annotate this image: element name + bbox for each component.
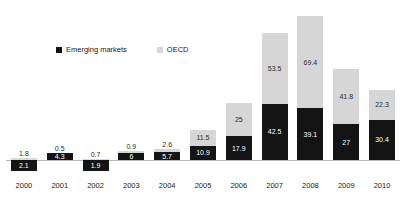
bar-value-label-oecd: 0.7 xyxy=(91,151,101,158)
bar-stack: 0.96 xyxy=(118,151,144,160)
bar-segment-emerging-markets-below-axis: 2.1 xyxy=(11,160,37,171)
x-axis-tick-2004: 2004 xyxy=(151,181,183,190)
bar-segment-oecd: 22.3 xyxy=(369,90,395,120)
bar-group: 2517.9 xyxy=(223,8,255,176)
bar-group: 0.71.9 xyxy=(80,8,112,176)
x-axis-tick-2005: 2005 xyxy=(187,181,219,190)
bar-segment-emerging-markets: 10.9 xyxy=(190,146,216,160)
bar-value-label-oecd: 41.8 xyxy=(339,93,353,100)
bar-stack: 2517.9 xyxy=(226,103,252,160)
bar-value-label-oecd: 2.6 xyxy=(162,141,172,148)
bar-value-label-emerging-markets: 2.1 xyxy=(19,162,29,169)
bar-segment-emerging-markets-below-axis: 1.9 xyxy=(83,160,109,171)
bar-stack: 22.330.4 xyxy=(369,90,395,160)
x-axis-tick-2001: 2001 xyxy=(44,181,76,190)
bar-stack: 41.827 xyxy=(333,69,359,160)
x-axis-tick-2009: 2009 xyxy=(330,181,362,190)
bar-value-label-oecd: 22.3 xyxy=(375,101,389,108)
x-axis-tick-2000: 2000 xyxy=(8,181,40,190)
bar-group: 53.542.5 xyxy=(259,8,291,176)
bar-group: 2.65.7 xyxy=(151,8,183,176)
bar-segment-emerging-markets: 5.7 xyxy=(154,152,180,160)
bar-segment-oecd: 53.5 xyxy=(262,33,288,104)
plot-area: 1.82.10.54.30.71.90.962.65.711.510.92517… xyxy=(6,8,400,176)
stacked-bar-chart: Emerging markets OECD 1.82.10.54.30.71.9… xyxy=(0,0,406,206)
bar-group: 0.96 xyxy=(115,8,147,176)
bar-segment-oecd: 25 xyxy=(226,103,252,136)
bar-segment-oecd: 11.5 xyxy=(190,130,216,145)
x-axis-tick-2003: 2003 xyxy=(115,181,147,190)
bar-value-label-emerging-markets: 4.3 xyxy=(55,153,65,160)
bar-segment-emerging-markets: 27 xyxy=(333,124,359,160)
bar-value-label-oecd: 0.9 xyxy=(126,143,136,150)
bar-segment-emerging-markets: 17.9 xyxy=(226,136,252,160)
bar-stack: 11.510.9 xyxy=(190,130,216,160)
x-axis-tick-2002: 2002 xyxy=(80,181,112,190)
x-axis-tick-labels: 2000200120022003200420052006200720082009… xyxy=(6,181,400,190)
bar-value-label-oecd: 69.4 xyxy=(304,59,318,66)
bar-value-label-oecd: 53.5 xyxy=(268,65,282,72)
bar-segment-emerging-markets: 39.1 xyxy=(297,108,323,160)
bar-value-label-emerging-markets: 17.9 xyxy=(232,145,246,152)
bar-segment-emerging-markets: 42.5 xyxy=(262,104,288,160)
bar-group: 69.439.1 xyxy=(294,8,326,176)
bar-stack: 0.54.3 xyxy=(47,154,73,160)
bar-value-label-emerging-markets: 27 xyxy=(342,139,350,146)
bar-value-label-emerging-markets: 42.5 xyxy=(268,128,282,135)
x-axis-tick-2006: 2006 xyxy=(223,181,255,190)
x-axis-tick-2008: 2008 xyxy=(294,181,326,190)
bar-group: 22.330.4 xyxy=(366,8,398,176)
bar-value-label-oecd: 11.5 xyxy=(196,134,209,141)
bar-group: 0.54.3 xyxy=(44,8,76,176)
bar-value-label-emerging-markets: 30.4 xyxy=(375,136,389,143)
bar-value-label-oecd: 1.8 xyxy=(19,150,29,157)
bar-group: 41.827 xyxy=(330,8,362,176)
bar-segment-oecd: 69.4 xyxy=(297,16,323,108)
bar-stack: 2.65.7 xyxy=(154,149,180,160)
bar-value-label-oecd: 25 xyxy=(235,116,243,123)
x-axis-tick-2007: 2007 xyxy=(259,181,291,190)
bar-value-label-emerging-markets: 10.9 xyxy=(196,149,210,156)
bar-series-container: 1.82.10.54.30.71.90.962.65.711.510.92517… xyxy=(6,8,400,176)
bar-value-label-emerging-markets: 1.9 xyxy=(91,162,101,169)
x-axis-tick-2010: 2010 xyxy=(366,181,398,190)
bar-value-label-emerging-markets: 39.1 xyxy=(304,131,318,138)
bar-stack: 69.439.1 xyxy=(297,16,323,160)
bar-segment-oecd: 41.8 xyxy=(333,69,359,124)
bar-segment-emerging-markets: 4.3 xyxy=(47,153,73,160)
bar-value-label-emerging-markets: 6 xyxy=(129,153,133,160)
bar-value-label-emerging-markets: 5.7 xyxy=(162,153,172,160)
bar-value-label-oecd: 0.5 xyxy=(55,145,65,152)
bar-segment-emerging-markets: 30.4 xyxy=(369,120,395,160)
bar-group: 11.510.9 xyxy=(187,8,219,176)
bar-segment-emerging-markets: 6 xyxy=(118,153,144,160)
bar-stack: 53.542.5 xyxy=(262,33,288,160)
bar-group: 1.82.1 xyxy=(8,8,40,176)
